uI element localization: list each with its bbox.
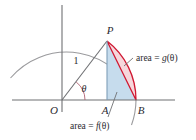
figure-container: P O A B 1 θ area = g(θ) area = f(θ): [0, 0, 196, 140]
area-f-prefix: area =: [70, 121, 96, 131]
geometry-diagram: P O A B 1 θ area = g(θ) area = f(θ): [0, 0, 196, 140]
point-label-B: B: [138, 104, 145, 116]
point-label-O: O: [50, 104, 58, 116]
area-f-label: area = f(θ): [70, 121, 109, 132]
area-g-prefix: area =: [136, 53, 162, 63]
angle-theta-label: θ: [82, 83, 87, 94]
point-label-A: A: [101, 104, 109, 116]
area-f-arg: (θ): [99, 121, 110, 132]
area-g-label: area = g(θ): [136, 53, 178, 64]
area-g-arg: (θ): [167, 53, 178, 64]
radius-length-label: 1: [74, 55, 79, 66]
point-label-P: P: [106, 24, 114, 36]
